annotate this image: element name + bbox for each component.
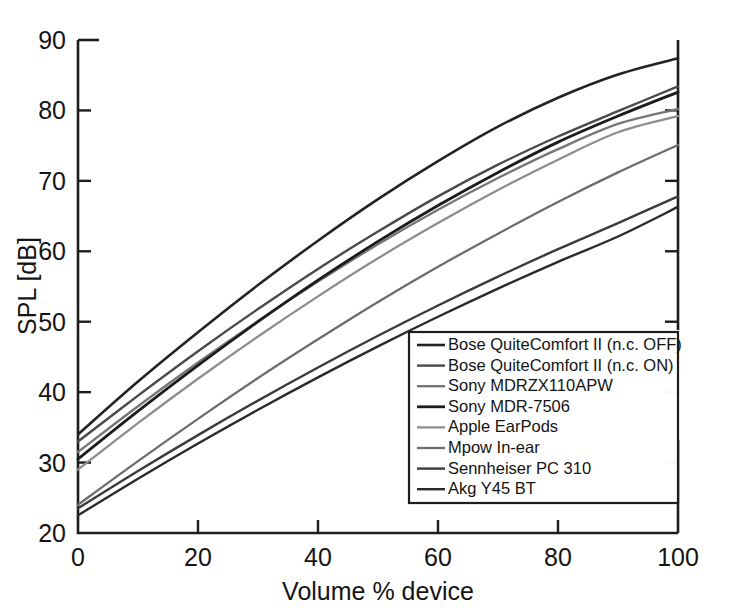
x-tick-label: 40 — [304, 543, 332, 571]
y-tick-label: 80 — [38, 96, 66, 124]
legend: Bose QuiteComfort II (n.c. OFF)Bose Quit… — [409, 332, 682, 503]
legend-label: Bose QuiteComfort II (n.c. OFF) — [448, 335, 682, 353]
legend-label: Mpow In-ear — [448, 438, 540, 456]
y-tick-label: 70 — [38, 167, 66, 195]
x-tick-label: 60 — [424, 543, 452, 571]
y-axis-tick-labels: 2030405060708090 — [38, 26, 66, 547]
legend-label: Akg Y45 BT — [448, 479, 536, 497]
x-axis-tick-labels: 020406080100 — [71, 543, 699, 571]
spl-vs-volume-line-chart: 2030405060708090 020406080100 SPL [dB] V… — [0, 0, 733, 613]
y-tick-label: 60 — [38, 237, 66, 265]
x-tick-label: 80 — [544, 543, 572, 571]
chart-figure: 2030405060708090 020406080100 SPL [dB] V… — [0, 0, 733, 613]
x-axis-ticks — [198, 520, 558, 533]
y-tick-label: 20 — [38, 519, 66, 547]
y-tick-label: 40 — [38, 378, 66, 406]
legend-label: Sennheiser PC 310 — [448, 459, 591, 477]
legend-label: Sony MDR-7506 — [448, 397, 570, 415]
legend-label: Bose QuiteComfort II (n.c. ON) — [448, 356, 674, 374]
legend-label: Apple EarPods — [448, 417, 558, 435]
x-tick-label: 0 — [71, 543, 85, 571]
legend-label: Sony MDRZX110APW — [448, 376, 613, 394]
y-tick-label: 90 — [38, 26, 66, 54]
x-tick-label: 20 — [184, 543, 212, 571]
y-axis-label: SPL [dB] — [13, 237, 41, 335]
y-tick-label: 50 — [38, 308, 66, 336]
x-tick-label: 100 — [657, 543, 699, 571]
x-axis-label: Volume % device — [282, 577, 474, 605]
y-axis-ticks — [78, 110, 91, 462]
y-tick-label: 30 — [38, 449, 66, 477]
